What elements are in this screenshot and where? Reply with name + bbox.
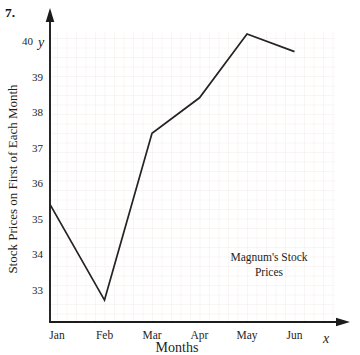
y-tick-label: 40 <box>22 35 34 47</box>
y-tick-label: 36 <box>32 177 44 189</box>
x-tick-label: Feb <box>96 329 114 341</box>
x-tick-label: May <box>236 329 257 342</box>
y-axis-title: Stock Prices on First of Each Month <box>5 84 20 274</box>
x-axis-title: Months <box>156 340 199 355</box>
y-tick-label: 37 <box>32 142 44 154</box>
x-tick-label: Jun <box>287 329 303 341</box>
x-axis-arrow-icon <box>336 318 350 327</box>
y-tick-label: 33 <box>32 284 44 296</box>
stock-price-chart: 4039383736353433 JanFebMarAprMayJun y x … <box>0 0 360 355</box>
y-tick-labels: 4039383736353433 <box>22 35 44 296</box>
x-tick-label: Jan <box>49 329 65 341</box>
chart-title-line-2: Prices <box>255 266 284 278</box>
y-tick-label: 38 <box>32 106 44 118</box>
y-axis-arrow-icon <box>46 8 55 22</box>
y-tick-label: 35 <box>32 213 44 225</box>
y-tick-label: 34 <box>32 248 44 260</box>
problem-number: 7. <box>5 5 15 21</box>
y-tick-label: 39 <box>32 71 44 83</box>
chart-title-line-1: Magnum's Stock <box>230 251 307 264</box>
textbook-figure: 7. 4039383736353433 JanFebMarAprMayJun y… <box>0 0 360 355</box>
x-axis-letter: x <box>322 331 330 346</box>
y-axis-letter: y <box>36 35 45 50</box>
